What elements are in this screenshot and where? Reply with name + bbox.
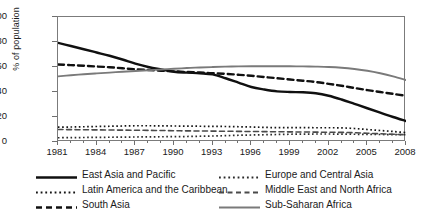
legend-swatch (36, 199, 77, 210)
y-tick-label: 60 (0, 61, 7, 71)
x-tick-label: 1996 (233, 147, 267, 157)
chart-legend: East Asia and PacificEurope and Central … (0, 168, 426, 214)
x-tick-mark (237, 141, 238, 143)
x-tick-mark (186, 141, 187, 143)
legend-label: South Asia (82, 200, 130, 210)
x-tick-mark (160, 141, 161, 143)
legend-label: Middle East and North Africa (265, 185, 392, 195)
y-tick-label: 40 (0, 86, 7, 96)
x-tick-label: 1981 (40, 147, 74, 157)
chart-figure: % of population East Asia and PacificEur… (0, 0, 426, 217)
x-tick-mark (121, 141, 122, 143)
legend-item[interactable]: Europe and Central Asia (219, 168, 373, 181)
x-tick-mark (70, 141, 71, 143)
x-tick-mark (315, 141, 316, 143)
x-tick-mark (328, 141, 329, 145)
legend-label: Latin America and the Caribbean (82, 185, 228, 195)
x-tick-mark (199, 141, 200, 143)
x-tick-mark (57, 141, 58, 145)
y-tick-mark (52, 41, 57, 42)
x-tick-mark (147, 141, 148, 143)
legend-swatch (36, 169, 77, 180)
x-tick-mark (405, 141, 406, 145)
series-lines (58, 17, 406, 142)
x-tick-mark (379, 141, 380, 143)
x-tick-mark (366, 141, 367, 145)
x-tick-mark (250, 141, 251, 145)
x-tick-mark (353, 141, 354, 143)
series-line (58, 134, 406, 138)
y-axis-title: % of population (11, 0, 21, 99)
x-tick-label: 1993 (195, 147, 229, 157)
y-tick-label: 20 (0, 111, 7, 121)
legend-item[interactable]: East Asia and Pacific (36, 168, 175, 181)
x-tick-mark (173, 141, 174, 145)
x-tick-mark (302, 141, 303, 143)
x-tick-mark (263, 141, 264, 143)
y-tick-label: 100 (0, 11, 7, 21)
legend-swatch (36, 184, 77, 195)
legend-label: East Asia and Pacific (82, 170, 175, 180)
x-tick-label: 1987 (117, 147, 151, 157)
legend-label: Europe and Central Asia (265, 170, 373, 180)
y-tick-mark (52, 91, 57, 92)
x-tick-mark (96, 141, 97, 145)
x-tick-label: 2005 (349, 147, 383, 157)
x-tick-mark (83, 141, 84, 143)
plot-area (57, 16, 405, 141)
x-tick-label: 1999 (272, 147, 306, 157)
legend-label: Sub-Saharan Africa (265, 200, 352, 210)
x-tick-mark (109, 141, 110, 143)
x-tick-mark (341, 141, 342, 143)
x-tick-mark (225, 141, 226, 143)
x-tick-label: 2002 (311, 147, 345, 157)
x-tick-mark (289, 141, 290, 145)
x-tick-mark (134, 141, 135, 145)
legend-item[interactable]: Middle East and North Africa (219, 183, 392, 196)
x-tick-mark (392, 141, 393, 143)
legend-swatch (219, 199, 260, 210)
legend-item[interactable]: Latin America and the Caribbean (36, 183, 228, 196)
series-line (58, 43, 406, 121)
x-tick-mark (276, 141, 277, 143)
x-tick-label: 1990 (156, 147, 190, 157)
y-tick-mark (52, 16, 57, 17)
x-tick-label: 1984 (79, 147, 113, 157)
y-tick-mark (52, 66, 57, 67)
legend-item[interactable]: Sub-Saharan Africa (219, 198, 352, 211)
y-tick-label: 80 (0, 36, 7, 46)
x-tick-mark (212, 141, 213, 145)
legend-swatch (219, 169, 260, 180)
y-tick-mark (52, 116, 57, 117)
legend-item[interactable]: South Asia (36, 198, 130, 211)
legend-swatch (219, 184, 260, 195)
y-tick-label: 0 (0, 136, 7, 146)
x-tick-label: 2008 (388, 147, 422, 157)
